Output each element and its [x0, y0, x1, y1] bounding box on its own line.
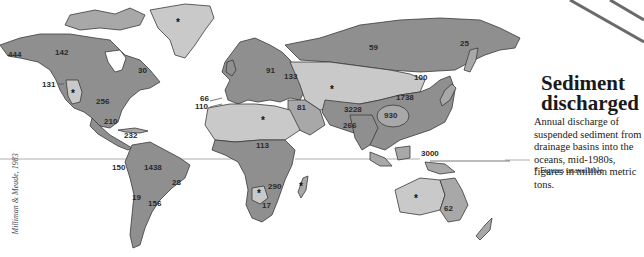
- label-110: 110: [195, 102, 208, 111]
- label-17: 17: [262, 201, 271, 210]
- north-america: [0, 34, 160, 128]
- label-266: 266: [343, 121, 357, 130]
- label-113: 113: [256, 141, 269, 150]
- source-credit: Milliman & Meade, 1983: [11, 155, 20, 235]
- map-subtitle: Annual discharge of suspended sediment f…: [534, 116, 644, 191]
- decorative-stripe: [610, 0, 644, 20]
- label-290: 290: [268, 182, 282, 191]
- label-210: 210: [104, 117, 118, 126]
- label-930: 930: [384, 111, 398, 120]
- label-madagascar-unavailable: *: [299, 181, 303, 192]
- arctic-islands: [65, 8, 145, 30]
- borneo: [395, 146, 410, 160]
- label-30: 30: [138, 66, 147, 75]
- label-100: 100: [414, 73, 428, 82]
- label-91: 91: [266, 66, 275, 75]
- western-australia: [395, 178, 445, 215]
- label-greenland-unavailable: *: [176, 17, 180, 28]
- central-africa: [212, 140, 295, 222]
- label-256: 256: [96, 97, 110, 106]
- label-kalahari-unavailable: *: [257, 188, 261, 199]
- label-25: 25: [460, 39, 469, 48]
- new-guinea: [425, 162, 455, 174]
- label-444: 444: [8, 50, 22, 59]
- label-133: 133: [284, 72, 298, 81]
- label-59: 59: [369, 43, 378, 52]
- label-142: 142: [55, 48, 69, 57]
- label-156: 156: [148, 199, 162, 208]
- label-62: 62: [444, 204, 453, 213]
- title-line-2: discharged: [541, 93, 644, 113]
- label-232: 232: [124, 131, 138, 140]
- title-line-1: Sediment: [541, 73, 644, 93]
- greenland: [150, 4, 214, 58]
- label-28: 28: [172, 178, 181, 187]
- unavailable-note: * Figures unavailable: [534, 166, 603, 175]
- north-africa: [205, 104, 300, 142]
- leader-66: [210, 98, 222, 101]
- label-81: 81: [297, 103, 306, 112]
- new-zealand: [476, 218, 492, 240]
- label-19: 19: [132, 193, 141, 202]
- map-title: Sediment discharged: [541, 73, 644, 113]
- label-1438: 1438: [144, 163, 162, 172]
- eastern-australia: [440, 178, 468, 222]
- label-sahara-unavailable: *: [261, 115, 265, 126]
- label-great-basin-unavailable: *: [71, 88, 75, 99]
- label-150: 150: [112, 163, 126, 172]
- label-131: 131: [42, 80, 56, 89]
- label-3000: 3000: [421, 149, 439, 158]
- decorative-stripe: [570, 0, 644, 42]
- label-western-australia-unavailable: *: [414, 193, 418, 204]
- label-3228: 3228: [344, 105, 362, 114]
- label-central-asia-unavailable: *: [330, 84, 334, 95]
- label-1738: 1738: [396, 93, 414, 102]
